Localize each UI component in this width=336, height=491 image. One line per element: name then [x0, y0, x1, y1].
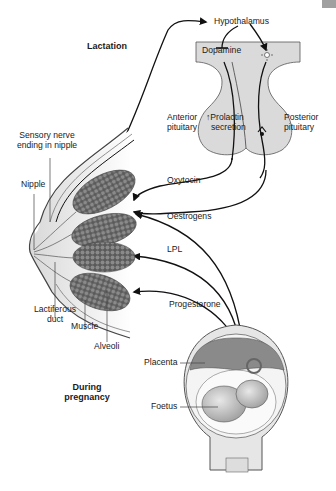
prolactin-secretion-label: ↑Prolactin secretion	[206, 113, 246, 132]
alveoli-cluster	[73, 242, 135, 272]
dopamine-label: Dopamine	[202, 46, 241, 56]
pituitary-gland	[196, 42, 300, 155]
pregnancy-title-line2: pregnancy	[52, 392, 122, 402]
alveoli-label: Alveoli	[94, 342, 119, 352]
oestrogens-label: Oestrogens	[167, 212, 211, 222]
posterior-pituitary-label: Posterior pituitary	[284, 113, 318, 132]
uterus-illustration	[180, 325, 288, 472]
pregnancy-title: During pregnancy	[52, 382, 122, 402]
anterior-pituitary-label: Anterior pituitary	[162, 113, 202, 132]
corner-marker	[322, 0, 336, 8]
oxytocin-label: Oxytocin	[167, 176, 200, 186]
nipple-label: Nipple	[21, 180, 45, 190]
muscle-label: Muscle	[71, 322, 98, 332]
posterior-line2: pituitary	[284, 123, 318, 133]
sensory-line2: ending in nipple	[10, 141, 84, 151]
sensory-nerve-label: Sensory nerve ending in nipple	[10, 131, 84, 150]
progesterone-label: Progesterone	[169, 300, 221, 310]
oestrogens-arrow	[136, 214, 242, 340]
foetus-label: Foetus	[151, 402, 177, 412]
hypothalamus-label: Hypothalamus	[214, 17, 269, 27]
anterior-line2: pituitary	[162, 123, 202, 133]
placenta-label: Placenta	[144, 358, 177, 368]
lactation-title: Lactation	[87, 41, 127, 51]
lpl-label: LPL	[167, 245, 182, 255]
prolactin-line2: secretion	[206, 123, 246, 133]
pregnancy-title-line1: During	[52, 382, 122, 392]
